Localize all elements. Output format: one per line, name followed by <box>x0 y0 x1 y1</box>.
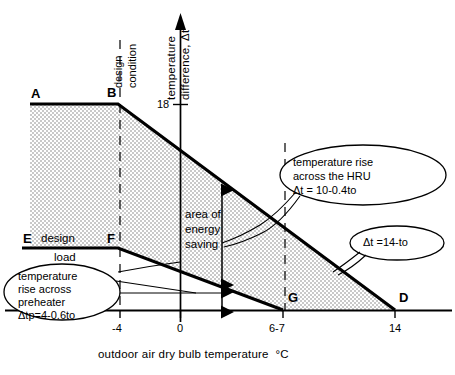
y-axis-title-line1: temperature <box>165 36 178 100</box>
point-label-g: G <box>288 291 298 306</box>
x-tick-label-0: 0 <box>177 322 183 334</box>
callout-hru-line2: across the HRU <box>293 170 371 182</box>
point-label-d: D <box>399 291 408 306</box>
callout-dt14-line1: Δt =14-to <box>363 236 408 248</box>
y-tick-label-18: 18 <box>157 98 169 110</box>
callout-preheater-line1: temperature <box>18 270 77 282</box>
point-label-b: B <box>107 86 116 101</box>
figure-container: A B E F G D design load design condition… <box>0 0 455 375</box>
callout-preheater-line3: preheater <box>18 296 65 308</box>
callout-preheater-line2: rise across <box>18 283 71 295</box>
callout-hru-line3: Δt = 10-0.4to <box>293 184 356 196</box>
y-axis-title-line2: difference, Δt <box>179 30 192 100</box>
area-energy-saving-line2: energy <box>185 223 220 236</box>
x-tick-label-6-7: 6-7 <box>269 322 285 334</box>
point-label-e: E <box>23 232 32 247</box>
design-condition-label-line2: condition <box>126 44 138 88</box>
design-load-label-load: load <box>54 251 76 264</box>
area-energy-saving-line1: area of <box>185 208 221 221</box>
x-axis-title: outdoor air dry bulb temperature °C <box>98 348 289 361</box>
area-energy-saving-line3: saving <box>185 238 218 251</box>
callout-preheater-line4: Δtp=4-0.6to <box>18 309 75 321</box>
callout-dt14-bubble <box>333 226 444 275</box>
design-load-label-design: design <box>41 232 75 245</box>
point-label-f: F <box>107 232 115 247</box>
x-tick-label-minus4: -4 <box>112 322 122 334</box>
callout-hru-line1: temperature rise <box>293 156 373 168</box>
design-condition-label-line1: design <box>112 56 124 88</box>
point-label-a: A <box>31 87 40 102</box>
x-tick-label-14: 14 <box>389 322 401 334</box>
